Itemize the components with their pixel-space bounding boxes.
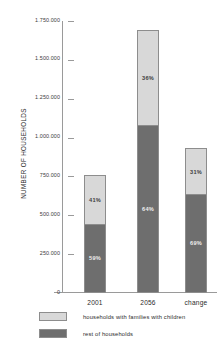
legend-label-families: households with families with children — [83, 314, 185, 320]
y-axis-tick-label: 1.750.000 — [35, 17, 60, 23]
y-axis-tick-mark — [68, 215, 74, 216]
y-axis-tick-label: 500.000 — [40, 211, 60, 217]
legend-swatch-dark — [39, 329, 67, 338]
chart-legend: households with families with children r… — [39, 311, 219, 345]
legend-item-rest: rest of households — [39, 328, 219, 339]
bar-segment-rest[interactable]: 59% — [85, 224, 105, 292]
y-axis-tick: 1.250.000 — [2, 99, 68, 100]
y-axis-tick: 1.750.000 — [2, 21, 68, 22]
bar-segment-divider — [138, 125, 158, 126]
y-axis-tick-mark — [68, 60, 74, 61]
y-axis-tick: 500.000 — [2, 215, 68, 216]
y-axis-tick-mark — [68, 99, 74, 100]
bar-segment-percent-label: 36% — [142, 75, 154, 81]
y-axis-tick-label: 0 — [57, 289, 60, 295]
legend-swatch-light — [39, 312, 67, 321]
x-axis-label-2001: 2001 — [65, 299, 125, 306]
y-axis-tick-label: 1.000.000 — [35, 133, 60, 139]
bar-segment-rest[interactable]: 64% — [138, 125, 158, 292]
bar-segment-percent-label: 64% — [142, 206, 154, 212]
y-axis-tick-mark — [68, 176, 74, 177]
legend-label-rest: rest of households — [83, 331, 133, 337]
stacked-bar-chart: NUMBER OF HOUSEHOLDS 1.750.0001.500.0001… — [0, 0, 221, 353]
y-axis-tick-label: 750.000 — [40, 172, 60, 178]
y-axis-tick: 1.000.000 — [2, 138, 68, 139]
stacked-bar[interactable]: 41%59% — [84, 175, 106, 293]
bar-segment-families[interactable]: 41% — [85, 176, 105, 224]
y-axis-tick: 750.000 — [2, 176, 68, 177]
plot-area: 1.750.0001.500.0001.250.0001.000.000750.… — [62, 21, 217, 293]
stacked-bar[interactable]: 36%64% — [137, 30, 159, 293]
y-axis-tick-label: 250.000 — [40, 250, 60, 256]
x-axis-label-change: change — [166, 299, 221, 306]
y-axis-tick-label: 1.500.000 — [35, 55, 60, 61]
bar-segment-rest[interactable]: 69% — [186, 194, 206, 292]
bar-group[interactable]: 36%64% — [137, 30, 159, 293]
y-axis-tick: 1.500.000 — [2, 60, 68, 61]
bar-segment-percent-label: 59% — [89, 255, 101, 261]
y-axis-tick: 0 — [2, 293, 68, 294]
bar-group[interactable]: 41%59% — [84, 175, 106, 293]
stacked-bar[interactable]: 31%69% — [185, 148, 207, 293]
bar-segment-percent-label: 69% — [190, 240, 202, 246]
bar-segment-divider — [186, 194, 206, 195]
y-axis-tick-mark — [68, 254, 74, 255]
bar-group[interactable]: 31%69% — [185, 148, 207, 293]
y-axis-tick-mark — [68, 138, 74, 139]
bar-segment-percent-label: 31% — [190, 169, 202, 175]
y-axis-line — [62, 21, 63, 293]
bar-segment-divider — [85, 224, 105, 225]
bar-segment-percent-label: 41% — [89, 197, 101, 203]
bar-segment-families[interactable]: 31% — [186, 149, 206, 193]
bar-segment-families[interactable]: 36% — [138, 31, 158, 125]
legend-item-families: households with families with children — [39, 311, 219, 322]
y-axis-tick-label: 1.250.000 — [35, 94, 60, 100]
y-axis-tick-mark — [68, 21, 74, 22]
y-axis-tick: 250.000 — [2, 254, 68, 255]
y-axis-title: NUMBER OF HOUSEHOLDS — [20, 84, 27, 224]
